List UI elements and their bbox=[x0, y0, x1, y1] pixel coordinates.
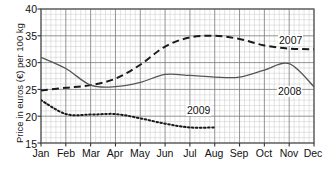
series-label-2008: 2008 bbox=[277, 86, 302, 97]
series-label-2007: 2007 bbox=[278, 35, 303, 46]
minor-gridlines bbox=[41, 9, 314, 143]
x-tick-label: Dec bbox=[298, 147, 328, 159]
chart-container: Price in euros (€) per 100 kg 40 35 30 2… bbox=[0, 0, 328, 172]
series-line-2007 bbox=[41, 36, 314, 91]
series-label-2009: 2009 bbox=[186, 105, 211, 116]
series-line-2008 bbox=[41, 57, 314, 87]
major-gridlines bbox=[41, 9, 314, 143]
plot-border bbox=[41, 9, 314, 143]
data-series-group bbox=[41, 36, 314, 128]
